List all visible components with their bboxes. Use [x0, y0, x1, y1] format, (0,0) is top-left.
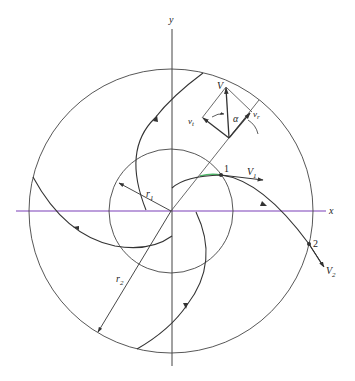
radial-velocity-label: vr — [253, 109, 260, 121]
figure-caption-cut — [16, 374, 146, 381]
direction-arrow-right — [260, 201, 267, 206]
velocity-v2-label: V2 — [326, 265, 336, 279]
spiral-trajectory-diagram: x y r1 r2 1 V1 2 V2 V — [0, 0, 355, 381]
tangential-velocity-arrow — [203, 118, 229, 138]
spiral-curve-right — [172, 175, 323, 266]
resultant-velocity-arrow — [226, 88, 229, 138]
flow-angle-arc — [248, 120, 258, 134]
direction-arrow-bottom — [183, 303, 188, 309]
point-1-label: 1 — [224, 163, 229, 174]
alpha-angle-arc — [212, 114, 224, 117]
velocity-decomposition: V vt vr α — [188, 80, 260, 138]
x-axis-label: x — [328, 205, 334, 216]
radius-r2-line — [171, 100, 259, 211]
radius-r2-arrow — [98, 211, 171, 332]
radius-r1-label: r1 — [146, 188, 153, 202]
alpha-angle-label: α — [233, 113, 239, 124]
point-2-label: 2 — [313, 238, 318, 249]
y-axis-label: y — [168, 14, 174, 25]
velocity-v1-arrow — [221, 175, 263, 180]
parallelogram-edge — [202, 87, 226, 118]
tangential-velocity-label: vt — [188, 116, 195, 128]
radius-r2-label: r2 — [116, 273, 124, 287]
spiral-curve-left — [33, 177, 172, 248]
parallelogram-edge — [226, 87, 252, 112]
